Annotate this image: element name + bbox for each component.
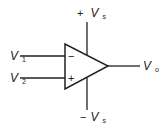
input-1-label: V 1 [10, 46, 26, 63]
inverting-input-sign: − [68, 50, 74, 62]
negative-supply-label: − V s [80, 107, 106, 124]
positive-supply-label: + V s [77, 3, 106, 20]
noninverting-input-sign: + [68, 72, 74, 84]
op-amp-svg: − + + V s − V s V 1 V 2 V o [0, 0, 166, 133]
output-label: V o [143, 56, 159, 73]
input-2-label: V 2 [10, 68, 26, 85]
op-amp-diagram: − + + V s − V s V 1 V 2 V o [0, 0, 166, 133]
